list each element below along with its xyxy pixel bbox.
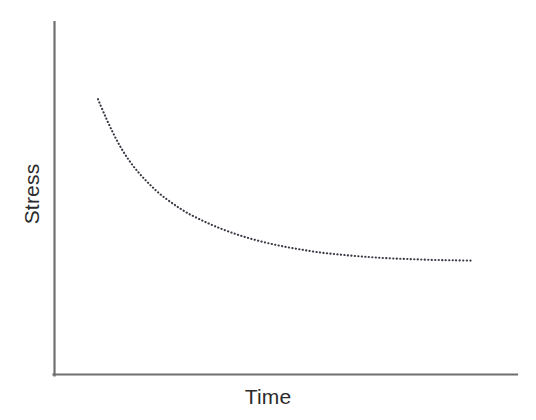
x-axis-label: Time (0, 385, 536, 409)
chart-canvas (0, 0, 536, 420)
stress-relaxation-figure: Stress Time (0, 0, 536, 420)
stress-relaxation-curve (98, 99, 473, 260)
